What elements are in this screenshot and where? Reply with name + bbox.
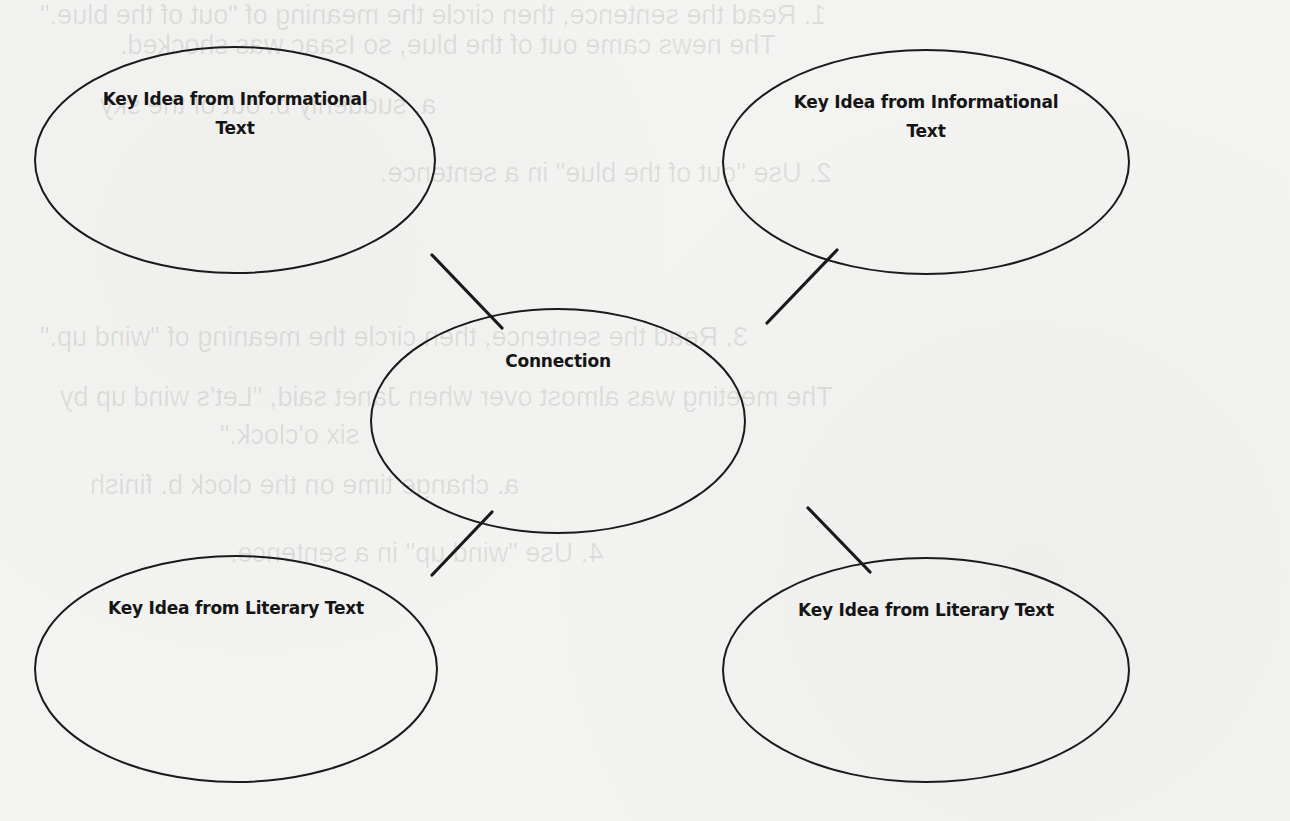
graphic-organizer-page: 1. Read the sentence, then circle the me… — [0, 0, 1290, 821]
connector-line — [432, 512, 492, 575]
node-label-connection: Connection — [505, 347, 611, 376]
node-label-literary-2: Key Idea from Literary Text — [798, 596, 1054, 625]
write-area-literary-1[interactable] — [95, 624, 376, 760]
write-area-informational-2[interactable] — [784, 117, 1068, 251]
node-label-line: Key Idea from Literary Text — [108, 594, 364, 623]
node-label-line: Connection — [505, 347, 611, 376]
write-area-connection[interactable] — [427, 376, 689, 510]
connector-line — [808, 508, 870, 572]
node-label-line: Key Idea from Informational — [794, 88, 1059, 117]
write-area-informational-1[interactable] — [95, 115, 375, 251]
connector-line — [767, 250, 837, 323]
node-label-line: Key Idea from Informational — [103, 85, 368, 114]
write-area-literary-2[interactable] — [784, 625, 1068, 759]
node-label-line: Key Idea from Literary Text — [798, 596, 1054, 625]
node-label-literary-1: Key Idea from Literary Text — [108, 594, 364, 623]
